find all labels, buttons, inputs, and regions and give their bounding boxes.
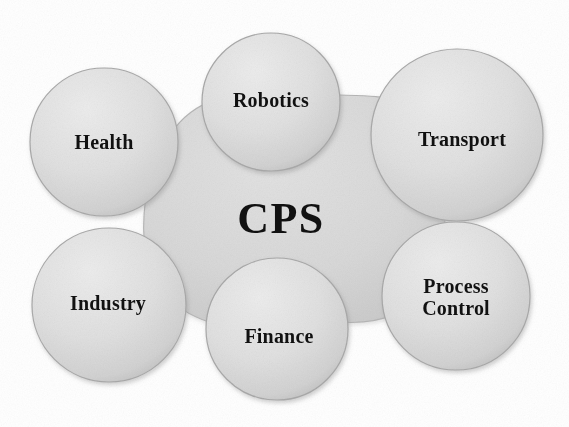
label-process-control: Process Control bbox=[422, 275, 490, 320]
label-robotics: Robotics bbox=[233, 89, 309, 111]
cps-domains-diagram: CPS Health Robotics Transport Industry F… bbox=[0, 0, 569, 427]
label-transport: Transport bbox=[418, 128, 506, 150]
label-health: Health bbox=[75, 131, 134, 153]
core-label-cps: CPS bbox=[237, 194, 325, 243]
diagram-labels: CPS Health Robotics Transport Industry F… bbox=[0, 0, 569, 427]
label-finance: Finance bbox=[244, 325, 313, 347]
label-industry: Industry bbox=[70, 292, 146, 314]
